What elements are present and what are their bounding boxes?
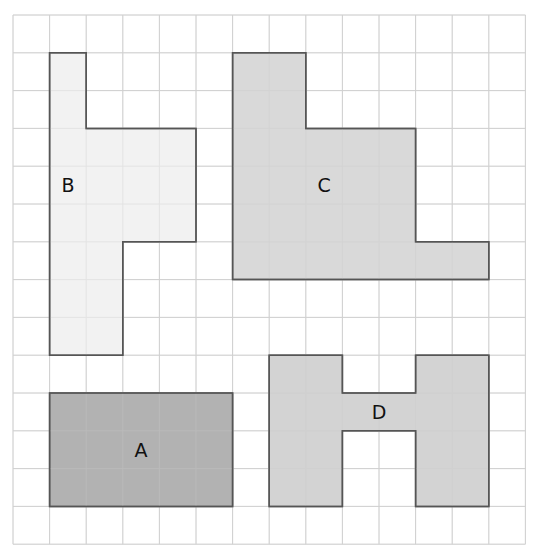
shapes-layer bbox=[13, 15, 525, 544]
grid-diagram: B C A D bbox=[0, 0, 535, 558]
shape-label-b: B bbox=[61, 174, 74, 196]
grid-canvas: B C A D bbox=[0, 0, 535, 558]
shape-label-c: C bbox=[317, 174, 330, 196]
shape-label-d: D bbox=[372, 401, 387, 423]
shape-label-a: A bbox=[135, 439, 148, 461]
